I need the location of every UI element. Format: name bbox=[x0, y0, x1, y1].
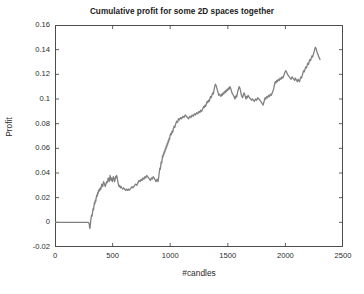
plot-canvas bbox=[55, 25, 343, 247]
chart-figure: Cumulative profit for some 2D spaces tog… bbox=[0, 0, 364, 294]
plot-area bbox=[55, 25, 343, 247]
x-tick-label: 500 bbox=[93, 251, 133, 260]
x-tick-label: 2000 bbox=[265, 251, 305, 260]
y-tick-label: 0.02 bbox=[8, 193, 50, 202]
axes-frame bbox=[56, 26, 343, 247]
x-tick-label: 1500 bbox=[208, 251, 248, 260]
y-tick-label: 0.06 bbox=[8, 143, 50, 152]
y-tick-label: 0 bbox=[8, 217, 50, 226]
x-tick-label: 1000 bbox=[150, 251, 190, 260]
chart-title: Cumulative profit for some 2D spaces tog… bbox=[0, 7, 364, 16]
y-tick-label: 0.04 bbox=[8, 168, 50, 177]
y-tick-label: 0.12 bbox=[8, 69, 50, 78]
y-tick-label: 0.08 bbox=[8, 119, 50, 128]
y-tick-label: 0.1 bbox=[8, 94, 50, 103]
x-axis-label: #candles bbox=[55, 268, 343, 278]
x-tick-label: 2500 bbox=[323, 251, 363, 260]
y-tick-label: 0.14 bbox=[8, 45, 50, 54]
y-tick-label: 0.16 bbox=[8, 20, 50, 29]
x-tick-label: 0 bbox=[35, 251, 75, 260]
y-tick-label: -0.02 bbox=[8, 242, 50, 251]
